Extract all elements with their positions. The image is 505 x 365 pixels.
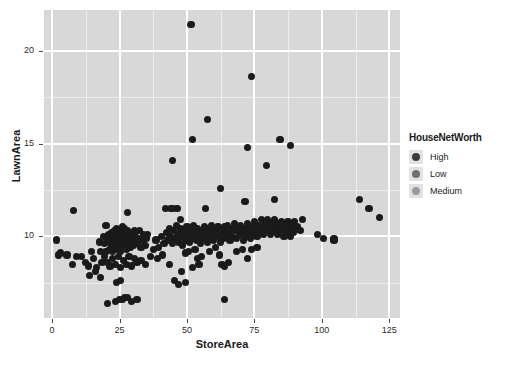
x-axis-tick-label: 75 xyxy=(234,325,274,335)
scatter-point xyxy=(178,268,185,275)
scatter-point xyxy=(212,244,219,251)
scatter-point xyxy=(97,274,104,281)
scatter-point xyxy=(244,144,251,151)
scatter-point xyxy=(253,244,260,251)
gridline-major-vertical xyxy=(51,10,53,318)
scatter-point xyxy=(287,142,294,149)
legend-items: HighLowMedium xyxy=(409,149,505,198)
y-axis-tick xyxy=(39,144,43,145)
scatter-point xyxy=(88,248,95,255)
scatter-point xyxy=(198,253,205,260)
scatter-point xyxy=(376,214,383,221)
scatter-point xyxy=(90,255,97,262)
legend-title: HouseNetWorth xyxy=(409,132,505,143)
x-axis-tick xyxy=(254,319,255,323)
y-axis-tick-label: 20 xyxy=(8,45,34,55)
scatter-point xyxy=(154,255,161,262)
scatter-point xyxy=(204,116,211,123)
legend-item-label: Low xyxy=(430,169,447,179)
x-axis-tick xyxy=(389,319,390,323)
scatter-point xyxy=(63,251,70,258)
legend-point-icon xyxy=(412,187,420,195)
scatter-point xyxy=(142,261,149,268)
scatter-point xyxy=(53,236,60,243)
y-axis-tick-label: 10 xyxy=(8,230,34,240)
scatter-point xyxy=(102,222,109,229)
x-axis-tick-label: 100 xyxy=(302,325,342,335)
gridline-major-vertical xyxy=(186,10,188,318)
legend-item[interactable]: Medium xyxy=(409,183,505,198)
y-axis-tick xyxy=(39,236,43,237)
scatter-point xyxy=(191,246,198,253)
gridline-major-vertical xyxy=(388,10,390,318)
legend-item-label: High xyxy=(430,152,449,162)
scatter-point xyxy=(225,259,232,266)
scatter-point xyxy=(169,157,176,164)
legend-key-swatch xyxy=(409,184,423,198)
legend: HouseNetWorth HighLowMedium xyxy=(409,132,505,200)
y-axis-tick xyxy=(39,51,43,52)
legend-point-icon xyxy=(412,153,420,161)
x-axis-tick xyxy=(322,319,323,323)
scatter-point xyxy=(330,236,337,243)
scatter-point xyxy=(104,300,111,307)
scatter-point xyxy=(85,262,92,269)
x-axis-tick-label: 25 xyxy=(100,325,140,335)
x-axis-tick-label: 125 xyxy=(369,325,409,335)
scatter-point xyxy=(124,209,131,216)
x-axis-tick xyxy=(187,319,188,323)
scatter-point xyxy=(244,255,251,262)
scatter-point xyxy=(143,235,150,242)
x-axis-tick xyxy=(120,319,121,323)
scatter-point xyxy=(133,296,140,303)
x-axis-tick-label: 0 xyxy=(32,325,72,335)
scatter-point xyxy=(217,185,224,192)
x-axis-tick xyxy=(52,319,53,323)
scatter-point xyxy=(239,246,246,253)
scatter-point xyxy=(187,21,194,28)
scatter-point xyxy=(86,272,93,279)
legend-key-swatch xyxy=(409,150,423,164)
gridline-minor-vertical xyxy=(288,10,289,318)
legend-item[interactable]: High xyxy=(409,149,505,164)
scatter-point xyxy=(55,251,62,258)
gridline-major-vertical xyxy=(253,10,255,318)
scatter-point xyxy=(356,196,363,203)
scatter-point xyxy=(241,198,248,205)
gridline-minor-horizontal xyxy=(44,283,400,284)
scatter-point xyxy=(276,136,283,143)
legend-key-swatch xyxy=(409,167,423,181)
gridline-major-vertical xyxy=(119,10,121,318)
scatter-point xyxy=(202,205,209,212)
scatter-point xyxy=(177,216,184,223)
gridline-major-horizontal xyxy=(44,50,400,52)
scatter-point xyxy=(320,235,327,242)
scatter-point xyxy=(271,196,278,203)
scatter-point xyxy=(182,279,189,286)
chart-root: 0255075100125 101520 StoreArea LawnArea … xyxy=(0,0,505,365)
y-axis-label: LawnArea xyxy=(10,116,22,196)
scatter-point xyxy=(69,261,76,268)
x-axis-label: StoreArea xyxy=(44,338,400,350)
scatter-point xyxy=(142,242,149,249)
scatter-point xyxy=(173,205,180,212)
plot-panel xyxy=(44,10,400,318)
scatter-point xyxy=(195,261,202,268)
gridline-minor-vertical xyxy=(221,10,222,318)
scatter-point xyxy=(166,261,173,268)
scatter-point xyxy=(365,205,372,212)
legend-item-label: Medium xyxy=(430,186,462,196)
legend-point-icon xyxy=(412,170,420,178)
legend-item[interactable]: Low xyxy=(409,166,505,181)
scatter-point xyxy=(216,251,223,258)
gridline-major-horizontal xyxy=(44,143,400,145)
scatter-point xyxy=(299,216,306,223)
gridline-minor-vertical xyxy=(153,10,154,318)
gridline-minor-horizontal xyxy=(44,97,400,98)
scatter-point xyxy=(70,207,77,214)
scatter-point xyxy=(297,227,304,234)
x-axis-tick-label: 50 xyxy=(167,325,207,335)
scatter-point xyxy=(221,296,228,303)
gridline-minor-vertical xyxy=(356,10,357,318)
scatter-point xyxy=(263,162,270,169)
